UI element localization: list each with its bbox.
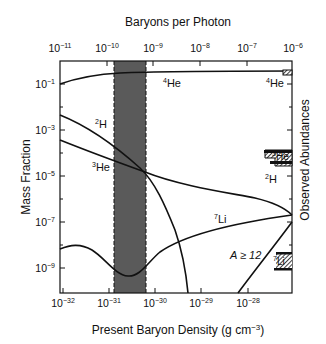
top-tick-label: 10−7 [237,42,257,54]
bottom-tick-label: 10−29 [189,297,213,309]
right-axis-title: Observed Abundances [298,99,312,220]
label-h2: 2H [95,118,107,130]
label-he4: 4He [163,77,181,89]
top-tick-label: 10−10 [95,42,119,54]
bottom-axis-title: Present Baryon Density (g cm−3) [92,323,265,337]
bottom-tick-label: 10−30 [143,297,167,309]
bottom-ticks [63,288,248,293]
left-ticks [60,84,65,268]
left-tick-label: 10−1 [35,78,55,90]
curve-he3 [60,140,292,215]
label-li7: 7Li [214,213,226,225]
bottom-tick-labels: 10−32 10−31 10−30 10−29 10−28 [51,297,260,309]
left-tick-label: 10−9 [35,262,55,274]
obs-he4-box [283,70,292,75]
top-tick-labels: 10−11 10−10 10−9 10−8 10−7 10−6 [48,42,302,54]
right-ticks [287,84,292,268]
obs-label-li7: 7Li [273,255,285,267]
bottom-tick-label: 10−32 [51,297,75,309]
top-axis-title: Baryons per Photon [125,15,231,29]
obs-label-he4: 4He [266,77,284,89]
bottom-tick-label: 10−31 [97,297,121,309]
left-tick-label: 10−3 [35,124,55,136]
left-tick-label: 10−5 [35,170,55,182]
top-tick-label: 10−11 [48,42,71,54]
bottom-tick-label: 10−28 [236,297,260,309]
top-tick-label: 10−8 [190,42,210,54]
top-tick-label: 10−6 [283,42,303,54]
label-he3: 3He [92,161,110,173]
shaded-band [114,61,146,293]
obs-label-h2: 2H [265,173,277,185]
left-axis-title: Mass Fraction [19,139,33,214]
bbn-abundance-chart: Baryons per Photon 10−11 10−10 10−9 10−8… [0,0,326,344]
top-tick-label: 10−9 [143,42,163,54]
left-tick-label: 10−7 [35,216,55,228]
label-a12: A ≥ 12 [229,249,261,261]
left-tick-labels: 10−1 10−3 10−5 10−7 10−9 [35,78,55,274]
